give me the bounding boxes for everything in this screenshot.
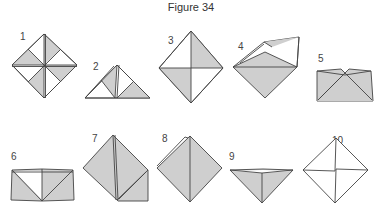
step-label: 1 [20, 31, 26, 42]
step-label: 9 [229, 151, 235, 162]
step-7-diagram: 7 [83, 133, 148, 201]
step-4-diagram: 4 [233, 37, 299, 98]
figure-title: Figure 34 [0, 1, 382, 13]
step-9-diagram: 9 [229, 151, 293, 203]
step-label: 6 [11, 151, 17, 162]
step-5-diagram: 5 [317, 53, 373, 101]
step-label: 7 [92, 133, 98, 144]
step-label: 2 [93, 61, 99, 72]
step-label: 8 [162, 133, 168, 144]
step-label: 5 [318, 53, 324, 64]
step-10-diagram: 10 [303, 135, 368, 203]
step-label: 4 [238, 41, 244, 52]
step-8-diagram: 8 [157, 133, 222, 202]
step-6-diagram: 6 [11, 151, 74, 201]
step-3-diagram: 3 [159, 31, 223, 103]
origami-figure: Figure 34 1 2 [0, 0, 382, 217]
step-label: 3 [168, 35, 174, 46]
step-2-diagram: 2 [85, 61, 150, 98]
step-1-diagram: 1 [12, 31, 77, 98]
